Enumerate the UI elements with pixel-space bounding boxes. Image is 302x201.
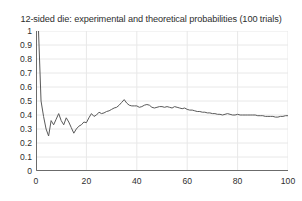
y-tick-label: 0 <box>4 167 32 176</box>
y-axis-tick-labels: 00.10.20.30.40.50.60.70.80.91 <box>2 31 32 171</box>
x-tick-label: 60 <box>167 177 207 186</box>
x-axis-tick-labels: 020406080100 <box>36 177 288 191</box>
y-tick-label: 0.5 <box>4 97 32 106</box>
grid-lines <box>36 31 288 171</box>
y-tick-label: 0.9 <box>4 41 32 50</box>
plot-area <box>36 31 288 171</box>
x-tick-label: 40 <box>117 177 157 186</box>
chart-container: 12-sided die: experimental and theoretic… <box>0 0 302 201</box>
x-tick-label: 20 <box>66 177 106 186</box>
y-tick-label: 0.3 <box>4 125 32 134</box>
x-tick-label: 100 <box>268 177 302 186</box>
y-tick-label: 0.7 <box>4 69 32 78</box>
plot-svg <box>36 31 288 171</box>
chart-title: 12-sided die: experimental and theoretic… <box>0 14 302 24</box>
x-tick-label: 80 <box>218 177 258 186</box>
data-series-line <box>39 31 288 136</box>
y-tick-label: 0.4 <box>4 111 32 120</box>
y-tick-label: 0.8 <box>4 55 32 64</box>
y-tick-label: 0.2 <box>4 139 32 148</box>
y-tick-label: 0.1 <box>4 153 32 162</box>
y-tick-label: 1 <box>4 27 32 36</box>
y-tick-label: 0.6 <box>4 83 32 92</box>
x-tick-label: 0 <box>16 177 56 186</box>
